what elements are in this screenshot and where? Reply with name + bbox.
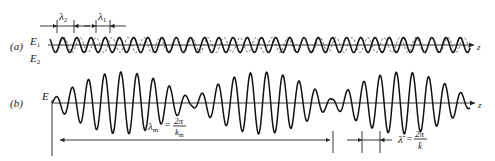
lambda-m-eq: = <box>164 119 171 130</box>
z-axis-a-label: z <box>476 42 481 52</box>
lambda-bar-eq: = <box>406 133 413 144</box>
part-a-label: (a) <box>10 40 23 53</box>
part-a: (a) E1 E2 z λ2 λ1 <box>10 10 481 66</box>
part-b-label: (b) <box>10 97 23 110</box>
lambda1-label: λ1 <box>97 10 107 24</box>
e-label: E <box>41 90 49 102</box>
lambda2-label: λ2 <box>58 10 68 24</box>
wave-superposition-figure: (a) E1 E2 z λ2 λ1 (b) E <box>0 0 495 161</box>
lambda-bar-denominator: k̄ <box>418 141 423 151</box>
e2-label: E2 <box>29 52 41 66</box>
z-axis-b-label: z <box>477 100 482 110</box>
lambda-bar-label: λ̄ <box>397 133 406 145</box>
lambda1-dimension: λ1 <box>84 10 126 33</box>
lambda2-dimension: λ2 <box>40 10 90 33</box>
lambda-bar-numerator: 2π <box>415 129 425 139</box>
lambda-m-denominator: km <box>175 127 184 138</box>
lambda-m-numerator: 2π <box>174 116 184 126</box>
e1-label: E1 <box>29 35 41 49</box>
part-b: (b) E z λm = 2π km λ̄ = 2π <box>10 72 482 156</box>
lambda-m-label: λm <box>147 120 159 134</box>
lambda-bar-dimension: λ̄ = 2π k̄ <box>347 129 427 153</box>
